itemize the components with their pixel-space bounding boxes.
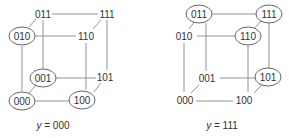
node-101: 101 [260, 72, 277, 83]
edge-011-010 [29, 19, 36, 27]
node-001: 001 [35, 73, 52, 84]
node-011: 011 [35, 9, 51, 20]
node-101: 101 [97, 72, 114, 83]
caption-left: y = 000 [35, 120, 70, 131]
hypercube-diagram: 011 111 010 110 001 101 000 100 y = 000 … [0, 0, 289, 138]
node-111: 111 [99, 9, 115, 20]
edge-001-000 [191, 85, 199, 93]
node-000: 000 [14, 96, 31, 107]
edge-101-100 [254, 85, 262, 93]
edge-001-000 [29, 85, 36, 93]
node-100: 100 [74, 95, 91, 106]
node-000: 000 [177, 95, 194, 106]
node-010: 010 [14, 31, 31, 42]
node-111: 111 [261, 9, 277, 20]
node-100: 100 [236, 95, 253, 106]
node-001: 001 [199, 73, 216, 84]
cube-left: 011 111 010 110 001 101 000 100 y = 000 [9, 9, 115, 131]
node-110: 110 [78, 31, 94, 42]
node-011: 011 [191, 9, 207, 20]
edge-111-110 [254, 21, 261, 29]
caption-right: y = 111 [205, 120, 238, 131]
node-110: 110 [240, 31, 256, 42]
edge-101-100 [94, 83, 101, 92]
cube-right: 011 111 010 110 001 101 000 100 y = 111 [176, 5, 282, 131]
node-010: 010 [176, 31, 193, 42]
edge-111-110 [93, 20, 101, 29]
